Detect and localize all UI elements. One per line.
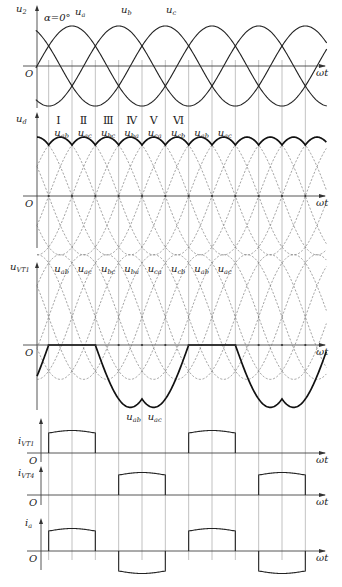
zero-point — [94, 344, 96, 346]
plot-thyristor-voltage: OωtuVT1uabuacubcubaucaucbuabuacuabuac — [10, 255, 329, 424]
x-axis-label: ωt — [316, 496, 329, 507]
zero-point — [211, 195, 213, 197]
line-voltage-label: uab — [54, 263, 68, 276]
y-axis-label-ivt4: iVT4 — [18, 467, 34, 480]
zero-point — [94, 195, 96, 197]
y-axis-label-ivt1: iVT1 — [18, 435, 34, 448]
zero-point — [188, 344, 190, 346]
zero-point — [304, 195, 306, 197]
label-ua: ua — [75, 6, 85, 19]
zero-point — [258, 344, 260, 346]
y-axis-label-u2: u2 — [16, 3, 27, 16]
zero-point — [211, 344, 213, 346]
interval-label: Ⅳ — [126, 114, 138, 127]
origin-label: O — [29, 553, 37, 564]
zero-point — [188, 195, 190, 197]
origin-label: O — [25, 347, 33, 358]
y-axis-label-uvt1: uVT1 — [10, 261, 30, 274]
line-voltage-label: ubc — [101, 263, 116, 276]
origin-label: O — [25, 68, 33, 79]
zero-point — [118, 344, 120, 346]
alpha-label: α=0° — [44, 12, 71, 23]
interval-label: Ⅱ — [80, 114, 87, 127]
origin-label: O — [29, 455, 37, 466]
thyristor-voltage-curve — [37, 345, 326, 407]
line-voltage-label: ucb — [171, 263, 185, 276]
zero-point — [71, 195, 73, 197]
label-ub: ub — [121, 4, 132, 17]
interval-label: Ⅵ — [172, 114, 184, 127]
y-axis-label-ud: ud — [16, 113, 27, 126]
y-axis-arrow-icon — [35, 262, 39, 268]
origin-label: O — [25, 198, 33, 209]
line-voltage-label: uca — [148, 263, 162, 276]
plot-ivt1-current: OωtiVT1 — [18, 418, 329, 466]
x-axis-label: ωt — [316, 454, 329, 465]
plot-phase-current: Oωtia — [25, 517, 329, 574]
zero-point — [281, 195, 283, 197]
zero-point — [234, 195, 236, 197]
interval-label: Ⅰ — [56, 114, 60, 127]
x-axis-label: ωt — [316, 346, 329, 357]
line-voltage-label: uab — [194, 263, 209, 276]
zero-point — [281, 344, 283, 346]
zero-point — [304, 344, 306, 346]
waveform-diagram: Oωtu2α=0°uaubuc OωtudⅠⅡⅢⅣⅤⅥuabuacubcubau… — [0, 0, 342, 587]
x-axis-label: ωt — [316, 197, 329, 208]
y-axis-arrow-icon — [39, 466, 43, 472]
zero-point — [141, 344, 143, 346]
origin-label: O — [29, 497, 37, 508]
line-voltage-label: uac — [78, 263, 92, 276]
lower-label-uab: uab — [126, 411, 141, 424]
interval-label: Ⅴ — [149, 114, 159, 127]
x-axis-label: ωt — [316, 552, 329, 563]
label-uc: uc — [166, 4, 176, 17]
zero-point — [71, 344, 73, 346]
zero-point — [118, 195, 120, 197]
zero-point — [164, 344, 166, 346]
y-axis-arrow-icon — [39, 518, 43, 524]
zero-point — [48, 195, 50, 197]
line-voltage-label: uac — [218, 263, 232, 276]
zero-point — [234, 344, 236, 346]
y-axis-arrow-icon — [35, 5, 39, 11]
y-axis-arrow-icon — [39, 418, 43, 424]
y-axis-label-ia: ia — [25, 517, 32, 530]
interval-label: Ⅲ — [103, 114, 114, 127]
lower-label-uac: uac — [148, 411, 162, 424]
zero-point — [48, 344, 50, 346]
x-axis-label: ωt — [316, 67, 329, 78]
zero-point — [164, 195, 166, 197]
y-axis-arrow-icon — [35, 112, 39, 118]
zero-point — [258, 195, 260, 197]
plot-ivt4-current: OωtiVT4 — [18, 466, 329, 508]
line-voltage-label: uba — [124, 263, 139, 276]
zero-point — [141, 195, 143, 197]
